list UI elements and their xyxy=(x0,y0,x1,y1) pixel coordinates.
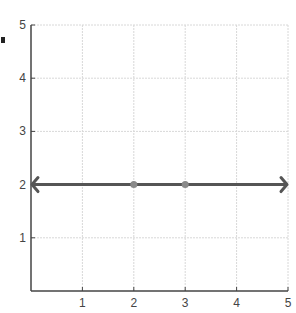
y-tick-label: 1 xyxy=(19,231,26,245)
x-tick-label: 4 xyxy=(233,296,240,310)
y-tick-label: 5 xyxy=(19,18,26,32)
y-tick-label: 3 xyxy=(19,124,26,138)
grid-lines xyxy=(31,25,288,291)
x-tick-label: 3 xyxy=(182,296,189,310)
y-tick-label: 2 xyxy=(19,178,26,192)
y-tick-label: 4 xyxy=(19,71,26,85)
data-point xyxy=(130,181,137,188)
data-series xyxy=(32,178,287,192)
line-chart: 1234512345 xyxy=(0,0,296,313)
x-tick-label: 2 xyxy=(130,296,137,310)
x-tick-label: 1 xyxy=(79,296,86,310)
axes xyxy=(31,25,288,291)
data-point xyxy=(182,181,189,188)
x-tick-label: 5 xyxy=(285,296,292,310)
tick-labels: 1234512345 xyxy=(19,18,291,310)
